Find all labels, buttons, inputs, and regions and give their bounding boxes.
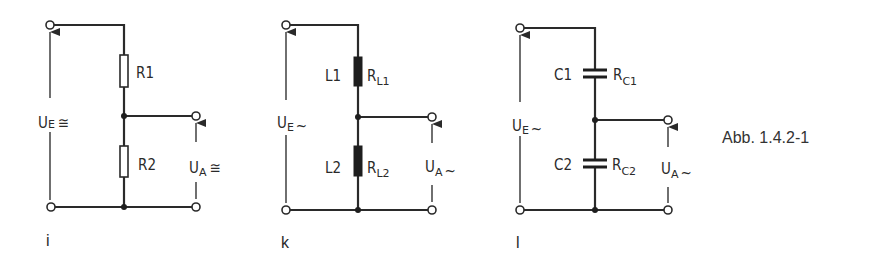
label-input-voltage: UE≅ (38, 114, 69, 132)
terminal-output-top (192, 112, 200, 120)
label-input-voltage: UE~ (277, 114, 307, 135)
wire-top-l (524, 28, 595, 70)
terminal-input-bottom (47, 203, 55, 211)
capacitor-c1-symbol (583, 70, 607, 77)
label-input-voltage: UE~ (512, 117, 542, 138)
circuit-tag-i: i (46, 232, 50, 249)
label-r1: R1 (136, 64, 154, 82)
circuit-tag-l: l (516, 234, 520, 251)
terminal-input-top (516, 24, 524, 32)
terminal-output-top (428, 113, 436, 121)
label-output-voltage: UA~ (661, 160, 692, 182)
circuit-tag-k: k (281, 234, 290, 251)
junction-dot (355, 207, 361, 213)
capacitor-c2-symbol (583, 160, 607, 167)
terminal-output-top (664, 116, 672, 124)
terminal-output-bottom (664, 206, 672, 214)
circuit-i: R1 R2 UE≅ UA≅ i (38, 21, 221, 249)
inductor-l1-symbol (354, 57, 362, 86)
label-rc2: RC2 (612, 156, 636, 178)
figure-caption: Abb. 1.4.2-1 (722, 129, 809, 146)
terminal-output-bottom (192, 203, 200, 211)
terminal-input-bottom (282, 206, 290, 214)
label-output-voltage: UA~ (425, 158, 456, 180)
label-rl1: RL1 (367, 67, 390, 88)
circuit-k: L1 RL1 L2 RL2 UE~ UA~ k (277, 21, 456, 251)
label-rc1: RC1 (613, 66, 637, 88)
junction-dot (592, 207, 598, 213)
junction-dot (121, 113, 127, 119)
junction-dot (355, 114, 361, 120)
label-rl2: RL2 (367, 159, 390, 180)
terminal-output-bottom (428, 206, 436, 214)
junction-dot (121, 204, 127, 210)
resistor-r1-symbol (120, 55, 128, 87)
wire-top-i (54, 25, 124, 55)
circuit-l: C1 RC1 C2 RC2 UE~ UA~ l (512, 24, 692, 251)
label-l2: L2 (325, 159, 341, 177)
inductor-l2-symbol (354, 146, 362, 176)
terminal-input-top (46, 21, 54, 29)
terminal-input-bottom (516, 206, 524, 214)
label-output-voltage: UA≅ (189, 159, 221, 179)
label-c2: C2 (554, 156, 572, 174)
label-c1: C1 (554, 66, 572, 84)
resistor-r2-symbol (120, 146, 128, 177)
junction-dot (592, 117, 598, 123)
figure-canvas: R1 R2 UE≅ UA≅ i L1 RL1 L2 RL2 (0, 0, 876, 266)
wire-top-k (290, 25, 358, 57)
terminal-input-top (282, 21, 290, 29)
label-r2: R2 (138, 156, 156, 174)
label-l1: L1 (325, 67, 341, 85)
